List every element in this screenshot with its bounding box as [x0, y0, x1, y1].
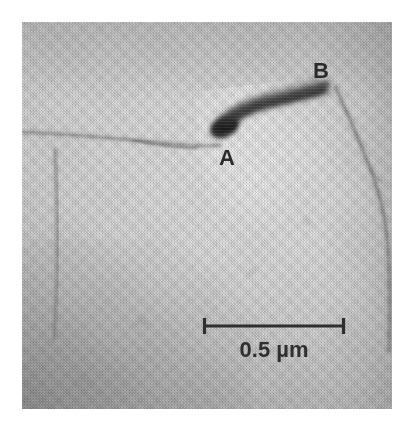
diagonal-grain-boundary-feature	[335, 86, 390, 352]
thin-horizontal-line-feature	[22, 132, 222, 148]
micrograph-mottling	[73, 218, 312, 388]
dark-elongated-defect-feature	[207, 84, 327, 142]
micrograph-features	[22, 22, 392, 409]
micrograph-panel	[22, 22, 392, 409]
figure-root: A B 0.5 µm	[0, 0, 414, 426]
vertical-grain-boundary-feature	[54, 148, 57, 340]
